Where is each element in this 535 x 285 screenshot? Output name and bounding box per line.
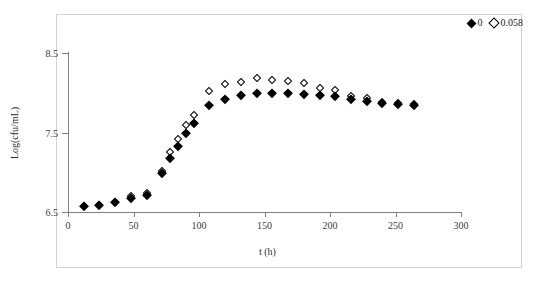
x-tick <box>265 212 266 217</box>
x-axis-title: t (h) <box>0 246 535 257</box>
legend-entry-0: 0 <box>468 18 483 28</box>
legend-label-0: 0 <box>478 18 483 28</box>
x-tick <box>396 212 397 217</box>
x-tick-label: 250 <box>388 220 403 231</box>
x-tick <box>68 212 69 217</box>
x-tick-label: 0 <box>66 220 71 231</box>
x-tick <box>134 212 135 217</box>
chart-figure: 0 0.058 6.57.58.5050100150200250300 Log(… <box>0 0 535 285</box>
legend: 0 0.058 <box>468 18 524 28</box>
x-tick-label: 200 <box>323 220 338 231</box>
y-axis-title: Log(cfu/mL) <box>9 107 20 159</box>
x-tick <box>330 212 331 217</box>
x-tick-label: 100 <box>192 220 207 231</box>
filled-diamond-icon <box>466 18 476 28</box>
x-tick-label: 50 <box>129 220 139 231</box>
x-tick-label: 150 <box>257 220 272 231</box>
x-tick-label: 300 <box>454 220 469 231</box>
x-tick <box>199 212 200 217</box>
legend-label-1: 0.058 <box>501 18 524 28</box>
y-tick-label: 8.5 <box>18 48 58 59</box>
x-tick <box>461 212 462 217</box>
y-tick-label: 6.5 <box>18 207 58 218</box>
y-tick-label: 7.5 <box>18 127 58 138</box>
open-diamond-icon <box>488 17 499 28</box>
legend-entry-1: 0.058 <box>490 18 524 28</box>
plot-area <box>68 53 461 212</box>
